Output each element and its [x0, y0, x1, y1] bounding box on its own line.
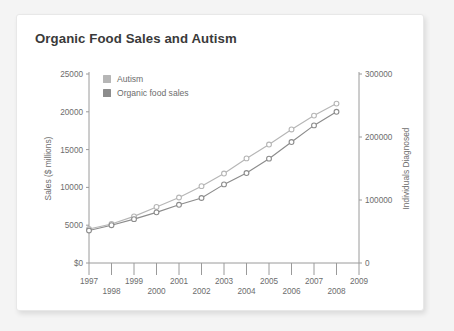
data-point: [154, 205, 159, 210]
y-axis-title-left: Sales ($ millions): [43, 136, 53, 200]
y-tick-label-left: $0: [74, 259, 84, 268]
series-line-autism: [89, 104, 337, 229]
data-point: [132, 217, 137, 222]
x-tick-label: 2000: [147, 287, 166, 296]
data-point: [109, 223, 114, 228]
series-line-organic-food-sales: [89, 112, 337, 231]
x-tick-label: 1998: [102, 287, 121, 296]
x-tick-label: 2009: [350, 277, 369, 286]
legend-swatch: [103, 89, 111, 97]
data-point: [87, 228, 92, 233]
data-point: [267, 142, 272, 147]
data-point: [312, 113, 317, 118]
x-tick-label: 2006: [282, 287, 301, 296]
data-point: [289, 140, 294, 145]
y-tick-label-left: 5000: [65, 221, 84, 230]
data-point: [199, 184, 204, 189]
data-point: [244, 156, 249, 161]
chart-container: $050001000015000200002500001000002000003…: [17, 15, 425, 312]
data-point: [222, 171, 227, 176]
data-point: [334, 109, 339, 114]
legend-swatch: [103, 75, 111, 83]
data-point: [334, 101, 339, 106]
legend-label: Autism: [117, 74, 143, 84]
y-tick-label-right: 300000: [365, 70, 393, 79]
y-axis-title-right: Individuals Diagnosed: [401, 127, 411, 209]
x-tick-label: 2007: [305, 277, 324, 286]
x-tick-label: 2003: [215, 277, 234, 286]
x-tick-label: 2005: [260, 277, 279, 286]
x-tick-label: 1997: [80, 277, 99, 286]
y-tick-label-left: 15000: [60, 146, 83, 155]
y-tick-label-left: 20000: [60, 108, 83, 117]
line-chart: $050001000015000200002500001000002000003…: [17, 15, 425, 312]
y-tick-label-left: 25000: [60, 70, 83, 79]
data-point: [267, 156, 272, 161]
y-tick-label-right: 0: [365, 259, 370, 268]
x-tick-label: 2002: [192, 287, 211, 296]
x-tick-label: 2001: [170, 277, 189, 286]
x-tick-label: 2004: [237, 287, 256, 296]
data-point: [199, 196, 204, 201]
y-tick-label-left: 10000: [60, 183, 83, 192]
data-point: [177, 202, 182, 207]
data-point: [222, 182, 227, 187]
y-tick-label-right: 200000: [365, 133, 393, 142]
data-point: [177, 195, 182, 200]
legend-label: Organic food sales: [117, 88, 189, 98]
x-tick-label: 1999: [125, 277, 144, 286]
page-background: Organic Food Sales and Autism $050001000…: [0, 0, 454, 331]
y-tick-label-right: 100000: [365, 196, 393, 205]
data-point: [154, 210, 159, 215]
data-point: [244, 171, 249, 176]
x-tick-label: 2008: [327, 287, 346, 296]
data-point: [312, 123, 317, 128]
chart-card: Organic Food Sales and Autism $050001000…: [16, 14, 424, 311]
data-point: [289, 127, 294, 132]
